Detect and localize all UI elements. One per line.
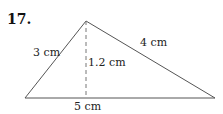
height-label: 1.2 cm [88,56,126,69]
left-side-label: 3 cm [33,46,60,59]
right-side-label: 4 cm [140,36,167,49]
base-label: 5 cm [74,100,101,113]
